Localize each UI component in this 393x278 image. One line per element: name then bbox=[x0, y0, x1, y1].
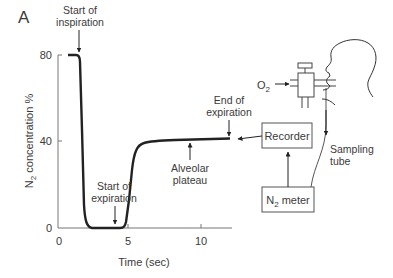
end-expiration-label-2: expiration bbox=[206, 106, 252, 118]
recorder-to-chart-arrow-icon bbox=[238, 136, 262, 139]
nitrogen-washout-figure: A 80 40 0 0 5 10 Time (sec) N2 concentra… bbox=[0, 0, 393, 278]
start-expiration-label-1: Start of bbox=[97, 180, 131, 192]
patient-head-icon bbox=[322, 40, 376, 105]
alveolar-plateau-label-2: plateau bbox=[173, 174, 208, 186]
x-tick-label-0: 0 bbox=[56, 235, 62, 247]
sampling-tube-label-1: Sampling bbox=[330, 143, 374, 155]
start-inspiration-label-2: inspiration bbox=[56, 16, 104, 28]
y-tick-label-40: 40 bbox=[40, 135, 52, 147]
y-tick-label-0: 0 bbox=[46, 222, 52, 234]
x-axis-title: Time (sec) bbox=[118, 256, 170, 268]
o2-label: O2 bbox=[257, 79, 271, 94]
alveolar-plateau-label-1: Alveolar bbox=[171, 162, 209, 174]
start-expiration-label-2: expiration bbox=[91, 192, 137, 204]
x-tick-label-10: 10 bbox=[195, 235, 207, 247]
start-inspiration-label-1: Start of bbox=[63, 4, 97, 16]
x-tick-label-5: 5 bbox=[125, 235, 131, 247]
panel-label: A bbox=[18, 8, 30, 27]
end-expiration-label-1: End of bbox=[214, 94, 244, 106]
sampling-tube-label-2: tube bbox=[330, 155, 351, 167]
sampling-tube-line bbox=[311, 88, 326, 187]
y-axis-title: N2 concentration % bbox=[23, 94, 38, 189]
recorder-label: Recorder bbox=[264, 130, 310, 142]
y-tick-label-80: 80 bbox=[40, 49, 52, 61]
